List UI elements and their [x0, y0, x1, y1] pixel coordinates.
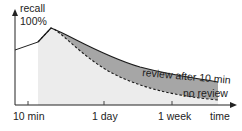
x-axis-label: time: [210, 110, 230, 122]
y-axis-arrow: [12, 9, 18, 16]
y-axis-label: recall: [20, 2, 45, 14]
x-tick-1day: 1 day: [92, 110, 118, 122]
x-axis-arrow: [230, 102, 237, 108]
no-review-label: no review: [183, 87, 228, 99]
x-tick-10min: 10 min: [13, 110, 45, 122]
x-tick-1week: 1 week: [158, 110, 192, 122]
forgetting-curve-chart: recall 100% 10 min 1 day 1 week time rev…: [0, 0, 242, 131]
y-tick-100: 100%: [20, 15, 47, 27]
